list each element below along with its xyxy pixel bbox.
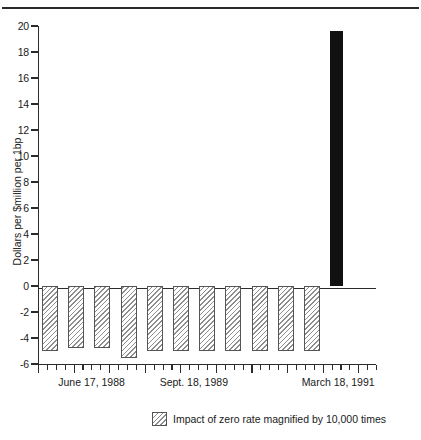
x-axis-tick — [163, 365, 164, 370]
x-axis-tick — [305, 365, 306, 370]
x-axis-tick — [91, 365, 92, 370]
chart-bar — [225, 286, 241, 351]
x-axis-tick — [145, 365, 146, 373]
y-axis-line — [38, 26, 39, 364]
x-axis-tick — [127, 365, 128, 370]
x-axis-tick — [100, 365, 101, 370]
x-axis-tick — [243, 365, 244, 370]
chart-bar — [304, 286, 320, 351]
chart-bar — [42, 286, 58, 351]
chart-bar — [173, 286, 189, 351]
x-axis-label: Sept. 18, 1989 — [160, 376, 228, 388]
chart-bar — [121, 286, 137, 358]
chart-bar — [199, 286, 215, 351]
chart-bar — [68, 286, 84, 348]
x-axis-tick — [234, 365, 235, 370]
x-axis-tick — [278, 365, 279, 370]
x-axis-tick — [154, 365, 155, 370]
legend-label: Impact of zero rate magnified by 10,000 … — [173, 413, 386, 425]
y-axis-tick-label: 10 — [3, 151, 29, 162]
y-axis-tick-label: 14 — [3, 99, 29, 110]
y-axis-tick-label: 12 — [3, 125, 29, 136]
y-axis-tick-label: 2 — [3, 255, 29, 266]
x-axis-tick — [216, 365, 217, 373]
x-axis-tick — [287, 365, 288, 373]
y-axis-tick-label: -2 — [3, 307, 29, 318]
y-axis-tick-label: -6 — [3, 359, 29, 370]
y-axis-tick-label: 4 — [3, 229, 29, 240]
y-axis-tick — [31, 233, 38, 234]
y-axis-tick — [31, 129, 38, 130]
x-axis-tick — [118, 365, 119, 370]
y-axis-tick-label: 8 — [3, 177, 29, 188]
y-axis-tick — [31, 51, 38, 52]
x-axis-tick — [225, 365, 226, 370]
x-axis-tick — [74, 365, 75, 373]
x-axis-tick — [189, 365, 190, 370]
x-axis-tick — [65, 365, 66, 370]
x-axis-label: March 18, 1991 — [302, 376, 375, 388]
y-axis-tick — [31, 311, 38, 312]
x-axis-tick — [180, 365, 181, 373]
x-axis-tick — [251, 365, 252, 373]
top-divider-rule — [2, 7, 419, 9]
x-axis-tick — [349, 365, 350, 370]
x-axis-tick — [47, 365, 48, 370]
y-axis-tick — [31, 285, 38, 286]
x-axis-tick — [340, 365, 341, 370]
x-axis-tick — [376, 365, 377, 370]
x-axis-tick — [323, 365, 324, 373]
y-axis-tick — [31, 25, 38, 26]
y-axis-tick-label: 6 — [3, 203, 29, 214]
y-axis-tick-label: 20 — [3, 21, 29, 32]
x-axis-tick — [109, 365, 110, 373]
chart-bar — [252, 286, 268, 351]
x-axis-tick — [296, 365, 297, 370]
y-axis-tick-label: 16 — [3, 73, 29, 84]
y-axis-tick-label: 18 — [3, 47, 29, 58]
x-axis-tick — [82, 365, 83, 370]
x-axis-tick — [269, 365, 270, 370]
y-axis-tick-label: -4 — [3, 333, 29, 344]
chart-figure: Dollars per $million per 1bp 20181614121… — [0, 0, 421, 440]
x-axis-tick — [358, 365, 359, 373]
x-axis-tick — [136, 365, 137, 370]
y-axis-tick — [31, 181, 38, 182]
chart-bar — [330, 31, 343, 286]
chart-legend: Impact of zero rate magnified by 10,000 … — [152, 412, 386, 426]
chart-bar — [147, 286, 163, 351]
x-axis-tick — [171, 365, 172, 370]
x-axis-tick — [367, 365, 368, 370]
chart-bar — [278, 286, 294, 351]
x-axis-tick — [198, 365, 199, 370]
x-axis-tick — [332, 365, 333, 370]
x-axis-tick — [260, 365, 261, 370]
x-axis-tick — [38, 365, 39, 373]
y-axis-tick-label-group: 20181614121086420-2-4-6 — [0, 0, 29, 440]
x-axis-label: June 17, 1988 — [58, 376, 125, 388]
chart-bar — [94, 286, 110, 348]
y-axis-tick — [31, 207, 38, 208]
x-axis-tick — [207, 365, 208, 370]
x-axis-tick — [56, 365, 57, 370]
y-axis-tick — [31, 363, 38, 364]
y-axis-tick — [31, 77, 38, 78]
legend-swatch-hatched-icon — [152, 412, 167, 426]
x-axis-tick — [314, 365, 315, 370]
y-axis-tick-label: 0 — [3, 281, 29, 292]
y-axis-tick — [31, 337, 38, 338]
y-axis-tick — [31, 155, 38, 156]
y-axis-tick — [31, 259, 38, 260]
y-axis-tick — [31, 103, 38, 104]
